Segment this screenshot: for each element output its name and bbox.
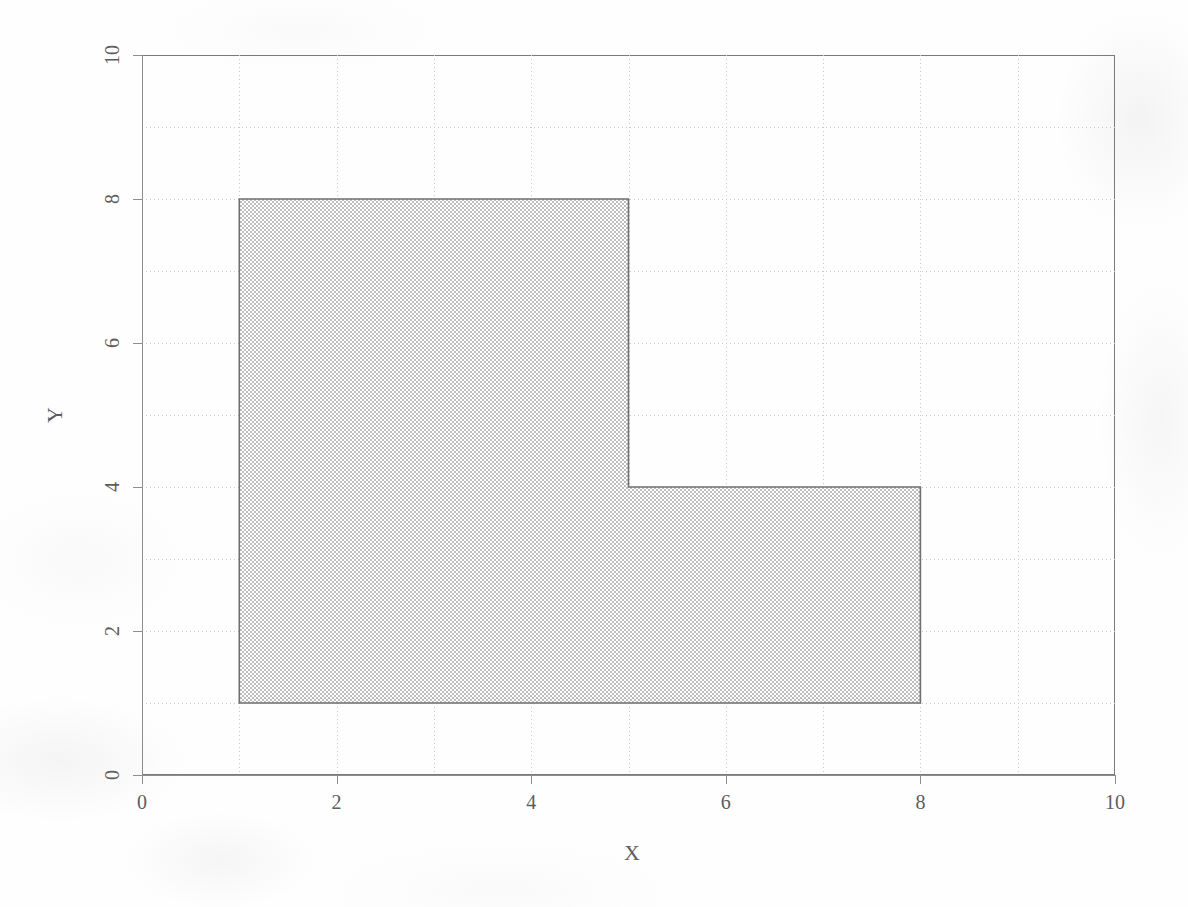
x-tick-mark [1115,775,1116,784]
x-tick-label: 6 [721,791,731,814]
y-tick-label: 2 [101,626,124,636]
x-tick-mark [142,775,143,784]
y-axis-title: Y [42,407,68,423]
chart-page: 0246810 0246810 X Y [0,0,1188,907]
x-tick-mark [531,775,532,784]
plot-area [142,55,1115,775]
l-shaped-region [239,199,920,703]
x-tick-label: 8 [915,791,925,814]
y-tick-mark [133,55,142,56]
x-axis-line [142,775,1115,776]
y-tick-mark [133,631,142,632]
y-tick-label: 4 [101,482,124,492]
data-polygon-layer [142,55,1115,775]
x-tick-label: 2 [332,791,342,814]
x-tick-mark [337,775,338,784]
y-tick-mark [133,199,142,200]
y-tick-label: 6 [101,338,124,348]
y-tick-mark [133,487,142,488]
y-tick-mark [133,775,142,776]
x-tick-label: 4 [526,791,536,814]
x-tick-label: 10 [1105,791,1125,814]
x-tick-mark [726,775,727,784]
x-axis-title: X [624,840,640,866]
x-tick-mark [920,775,921,784]
y-tick-label: 10 [101,45,124,65]
y-axis-line [142,55,143,775]
x-tick-label: 0 [137,791,147,814]
y-tick-mark [133,343,142,344]
y-tick-label: 0 [101,770,124,780]
y-tick-label: 8 [101,194,124,204]
